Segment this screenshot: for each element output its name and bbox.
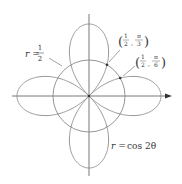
svg-text:): ) [161, 55, 166, 70]
svg-text:(: ( [135, 55, 140, 70]
leader-pi-3 [109, 50, 120, 62]
svg-text:(: ( [118, 34, 123, 49]
leader-pi-6 [123, 66, 135, 76]
svg-text:cos 2θ: cos 2θ [127, 141, 156, 151]
svg-text:2: 2 [124, 40, 128, 47]
svg-text:3: 3 [137, 40, 141, 47]
svg-text:6: 6 [154, 61, 158, 68]
rose-label: r = cos 2θ [111, 141, 156, 151]
svg-text:1: 1 [141, 53, 145, 60]
svg-text:1: 1 [38, 44, 42, 52]
svg-text:2: 2 [38, 55, 42, 63]
svg-text:1: 1 [124, 32, 128, 39]
svg-text:2: 2 [141, 61, 145, 68]
svg-text:π: π [154, 53, 158, 60]
origin-point [88, 95, 90, 97]
point-pi-3 [106, 64, 109, 67]
x-axis-arrowhead-icon [165, 94, 172, 99]
circle-label: r = 1 2 [25, 44, 44, 63]
svg-text:,: , [148, 60, 150, 67]
polar-diagram: r = 1 2 ( 1 2 , π 3 ) ( 1 2 , π 6 ) r = … [0, 0, 182, 184]
svg-text:,: , [131, 39, 133, 46]
svg-text:): ) [144, 34, 149, 49]
leader-circle [49, 58, 62, 66]
point-pi-6 [119, 77, 122, 80]
svg-text:r =: r = [111, 141, 126, 151]
point-label-pi-6: ( 1 2 , π 6 ) [135, 53, 166, 70]
svg-text:π: π [137, 32, 141, 39]
point-label-pi-3: ( 1 2 , π 3 ) [118, 32, 149, 49]
